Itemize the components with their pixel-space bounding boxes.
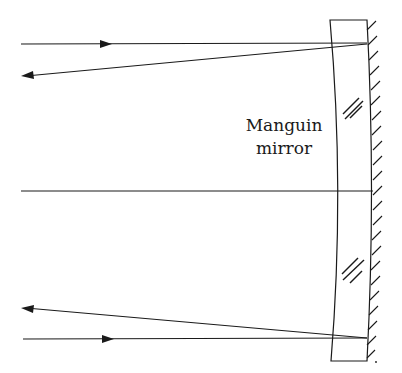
dot	[375, 361, 377, 363]
arrow-right-icon	[100, 40, 112, 48]
glass-marks-bottom	[342, 258, 364, 283]
top-incident-ray	[21, 43, 367, 44]
arrow-left-icon	[21, 305, 34, 313]
arrow-left-icon	[21, 71, 34, 79]
bottom-incident-ray	[23, 338, 367, 339]
top-reflected-ray	[26, 44, 367, 76]
mirror-label-line1: Manguin	[232, 114, 336, 137]
bottom-reflected-ray	[26, 308, 367, 338]
mirror-label-line2: mirror	[232, 137, 336, 160]
arrow-right-icon	[102, 335, 114, 343]
glass-marks-top	[343, 98, 363, 119]
manguin-mirror-diagram: Manguin mirror	[0, 0, 402, 373]
mirror-label: Manguin mirror	[232, 114, 336, 160]
diagram-graphic	[0, 0, 402, 373]
